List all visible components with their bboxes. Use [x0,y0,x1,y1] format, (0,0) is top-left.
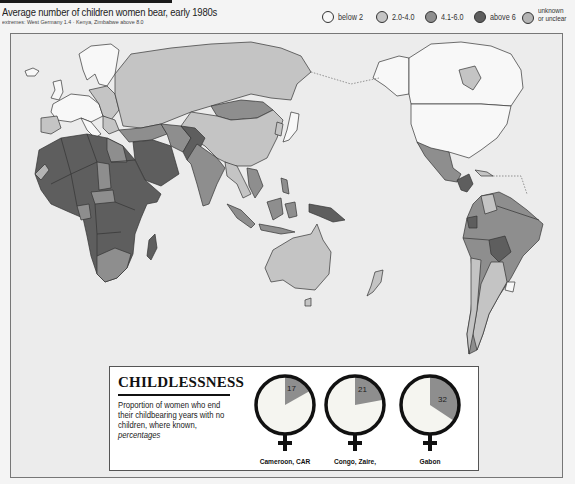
egypt [107,138,127,162]
inset-description-text: Proportion of women who end their childb… [118,400,224,430]
uruguay [505,282,515,292]
female-symbol-pie-icon [250,371,320,461]
legend-label-line2: or unclear [538,15,566,23]
sumatra [227,204,255,228]
new-zealand [367,270,383,296]
legend-label: unknown or unclear [538,7,566,23]
legend: below 2 2.0-4.0 4.1-6.0 above 6 unknown … [322,6,574,30]
legend-item-4-6: 4.1-6.0 [425,11,467,23]
date-line [311,72,379,84]
java [259,224,295,234]
pie-value: 21 [358,385,367,394]
central-african-republic [91,190,115,204]
tasmania [305,298,311,306]
japan [283,112,299,142]
pie-label: Cameroon, CAR [245,457,324,466]
new-guinea [309,204,345,222]
legend-swatch-icon [425,11,437,23]
pie-value: 17 [287,384,296,393]
title-rule [0,0,172,3]
chad [97,162,111,190]
inset-description: Proportion of women who end their childb… [118,400,228,440]
legend-item-below-2: below 2 [322,11,367,23]
pie-congo-zaire: 21 Congo, Zaire, [320,371,390,471]
balkans [103,116,119,134]
pie-label: Gabon [390,457,469,466]
iceland [25,68,39,76]
inset-title: CHILDLESSNESS [118,374,244,391]
scandinavia [79,44,119,86]
sulawesi [285,202,297,218]
borneo [267,198,283,220]
inset-title-rule [118,394,230,396]
legend-swatch-icon [376,11,388,23]
pie-gabon: 32 Gabon [395,371,465,471]
philippines [281,178,289,194]
caribbean-line [493,176,527,194]
madagascar [147,234,157,260]
legend-label: 4.1-6.0 [441,12,463,22]
pie-value: 32 [438,395,447,404]
legend-item-above-6: above 6 [474,11,520,23]
legend-label: 2.0-4.0 [392,12,414,22]
uk [51,80,63,100]
pie-label: Congo, Zaire, [315,457,394,466]
childlessness-panel: CHILDLESSNESS Proportion of women who en… [109,366,479,471]
female-symbol-pie-icon [320,371,390,461]
legend-swatch-icon [522,12,534,24]
map-subtitle: extremes: West Germany 1.4 · Kenya, Zimb… [2,19,144,25]
legend-item-unknown: unknown or unclear [522,6,571,24]
legend-swatch-icon [474,11,486,23]
alaska [373,56,409,96]
pie-cameroon-car: 17 Cameroon, CAR [250,371,320,471]
gabon [77,204,91,220]
ecuador [467,216,477,228]
inset-description-italic: percentages [118,430,228,440]
legend-label: above 6 [490,12,516,22]
cuba [475,170,493,176]
legend-item-2-4: 2.0-4.0 [376,11,418,23]
iberia [41,116,61,134]
legend-label: below 2 [338,12,363,22]
thailand [225,162,251,198]
female-symbol-pie-icon [395,371,465,461]
map-title: Average number of children women bear, e… [2,6,217,18]
australia [265,224,331,290]
legend-swatch-icon [322,11,334,23]
